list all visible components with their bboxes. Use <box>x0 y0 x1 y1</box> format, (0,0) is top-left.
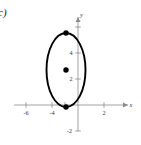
figure-root: c) x -6 -4 2 y <box>0 0 141 145</box>
plot-points-group <box>63 30 68 109</box>
y-axis-label: y <box>79 11 83 18</box>
x-tick-label--6: -6 <box>23 109 28 116</box>
y-axis-group: y <box>76 11 83 131</box>
coordinate-plot: x -6 -4 2 y 4 <box>0 0 141 145</box>
point-focus-upper <box>63 30 68 35</box>
x-tick-label-2: 2 <box>102 109 105 116</box>
x-axis-label: x <box>129 101 133 108</box>
point-center <box>63 67 68 72</box>
y-tick-label-2: 2 <box>69 75 72 82</box>
y-tick-label--2: -2 <box>67 127 72 134</box>
x-axis-arrow-icon <box>123 103 128 108</box>
point-focus-lower <box>63 104 68 109</box>
y-tick-labels: 4 2 -2 <box>67 49 73 134</box>
x-tick-label--4: -4 <box>49 109 54 116</box>
y-tick-label-4: 4 <box>69 49 72 56</box>
x-tick-labels: -6 -4 2 <box>23 109 105 116</box>
